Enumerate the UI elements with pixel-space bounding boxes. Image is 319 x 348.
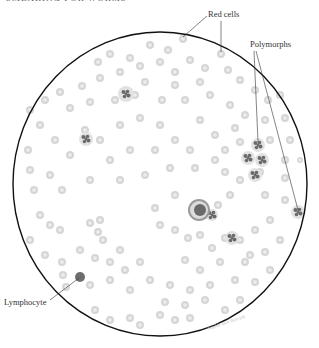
- red-cell: [196, 231, 204, 239]
- red-cell: [136, 62, 144, 70]
- red-cell: [151, 204, 159, 212]
- red-cell: [86, 176, 94, 184]
- red-cell: [171, 316, 179, 324]
- red-cell: [241, 258, 249, 266]
- red-cell: [251, 86, 259, 94]
- red-cell: [126, 286, 134, 294]
- red-cell: [251, 226, 259, 234]
- red-cell: [181, 96, 189, 104]
- red-cell: [214, 201, 222, 209]
- red-cell: [226, 101, 234, 109]
- red-cell: [59, 271, 67, 279]
- red-cell: [66, 104, 74, 112]
- red-cell: [106, 316, 114, 324]
- red-cell: [166, 164, 174, 172]
- red-cell: [196, 266, 204, 274]
- red-cell: [126, 146, 134, 154]
- red-cell: [184, 234, 192, 242]
- red-cell: [206, 281, 214, 289]
- red-cell: [171, 191, 179, 199]
- red-cell: [236, 138, 244, 146]
- red-cell: [36, 211, 44, 219]
- red-cell: [136, 321, 144, 329]
- red-cell: [46, 171, 54, 179]
- red-cell: [164, 46, 172, 54]
- red-cell: [236, 76, 244, 84]
- red-cell: [26, 166, 34, 174]
- red-cell: [106, 50, 114, 58]
- red-cell: [76, 246, 84, 254]
- red-cell: [196, 116, 204, 124]
- red-cell: [181, 256, 189, 264]
- red-cell: [224, 66, 232, 74]
- red-cell: [116, 121, 124, 129]
- lymphocyte-cell: [75, 272, 85, 282]
- red-cell: [156, 121, 164, 129]
- red-cell: [266, 266, 274, 274]
- label-polymorphs: Polymorphs: [250, 39, 291, 49]
- red-cell: [58, 258, 66, 266]
- polymorph-cell: [248, 168, 262, 182]
- polymorph-cell: [79, 132, 93, 146]
- red-cell: [30, 186, 38, 194]
- red-cell: [96, 216, 104, 224]
- red-cell: [116, 246, 124, 254]
- red-cell: [46, 221, 54, 229]
- red-cell: [24, 146, 32, 154]
- red-cell: [156, 311, 164, 319]
- red-cell: [141, 171, 149, 179]
- red-cell: [201, 64, 209, 72]
- red-cell: [221, 146, 229, 154]
- red-cell: [171, 81, 179, 89]
- red-cell: [186, 146, 194, 154]
- polymorph-cell: [241, 151, 255, 165]
- blood-smear-figure: Red cells Polymorphs Lymphocyte Sophie a…: [0, 0, 319, 348]
- red-cell: [86, 219, 94, 227]
- red-cell: [221, 306, 229, 314]
- red-cell: [276, 236, 284, 244]
- red-cell: [236, 176, 244, 184]
- red-cells-leader-1: [183, 16, 207, 37]
- red-cell: [208, 244, 216, 252]
- red-cell: [156, 221, 164, 229]
- red-cell: [261, 191, 269, 199]
- red-cell: [96, 136, 104, 144]
- red-cell: [146, 41, 154, 49]
- cells-layer: [24, 35, 305, 329]
- red-cell: [141, 78, 149, 86]
- red-cell: [211, 131, 219, 139]
- red-cell: [166, 281, 174, 289]
- red-cell: [281, 196, 289, 204]
- red-cell: [126, 314, 134, 322]
- red-cell: [171, 68, 179, 76]
- red-cell: [26, 236, 34, 244]
- artist-signature: Sophie ann Norrish: [207, 314, 246, 331]
- polymorph-cell: [225, 231, 239, 245]
- red-cell: [116, 68, 124, 76]
- red-cell: [286, 136, 294, 144]
- red-cell: [91, 254, 99, 262]
- polymorph-cell: [255, 153, 269, 167]
- label-lymphocyte: Lymphocyte: [4, 297, 47, 307]
- red-cell: [186, 314, 194, 322]
- red-cell: [136, 114, 144, 122]
- red-cell: [196, 78, 204, 86]
- polymorphs-leader-2: [256, 51, 298, 210]
- red-cell: [206, 91, 214, 99]
- polymorph-cell: [118, 86, 134, 102]
- red-cell: [86, 98, 94, 106]
- red-cell: [236, 296, 244, 304]
- red-cell: [231, 276, 239, 284]
- red-cell: [106, 258, 114, 266]
- red-cell: [106, 156, 114, 164]
- red-cell: [161, 298, 169, 306]
- red-cell: [266, 136, 274, 144]
- red-cell: [58, 186, 66, 194]
- red-cell: [146, 276, 154, 284]
- red-cell: [261, 116, 269, 124]
- red-cell: [99, 236, 107, 244]
- red-cell: [211, 156, 219, 164]
- red-cell: [181, 301, 189, 309]
- red-cell: [266, 216, 274, 224]
- red-cell: [201, 296, 209, 304]
